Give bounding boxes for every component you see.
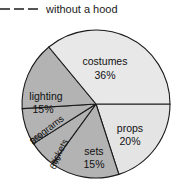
slice-value-props: 20%	[119, 135, 140, 147]
pie-chart: props20%sets15%tickets6%programs8%lighti…	[0, 0, 176, 190]
slice-name-lighting: lighting	[29, 90, 62, 102]
slice-name-costumes: costumes	[83, 55, 128, 67]
slice-value-lighting: 15%	[32, 103, 53, 115]
pie-chart-figure: without a hood props20%sets15%tickets6%p…	[0, 0, 176, 190]
slice-value-costumes: 36%	[94, 69, 115, 81]
slice-name-sets: sets	[84, 145, 103, 157]
slice-value-sets: 15%	[83, 158, 104, 170]
slice-name-props: props	[117, 122, 143, 134]
pie-chart-svg: props20%sets15%tickets6%programs8%lighti…	[0, 0, 176, 190]
